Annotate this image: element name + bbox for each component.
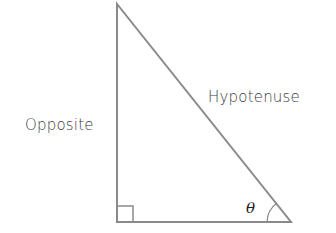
angle-arc [267, 203, 277, 222]
opposite-label: Opposite [25, 116, 94, 134]
hypotenuse-label: Hypotenuse [208, 88, 300, 106]
triangle [117, 4, 291, 222]
theta-label: θ [246, 199, 255, 217]
right-angle-marker [117, 206, 133, 222]
